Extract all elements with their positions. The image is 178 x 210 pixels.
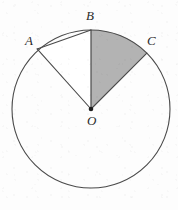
geometry-figure: A B C O <box>0 0 178 210</box>
vertex-label-a: A <box>25 34 33 47</box>
vertex-label-c: C <box>147 34 156 47</box>
sector-boc-fill <box>91 30 147 109</box>
circle-diagram-svg <box>0 0 178 210</box>
center-point-dot <box>89 107 94 112</box>
vertex-label-b: B <box>86 9 94 22</box>
triangle-aob-fill <box>37 30 91 109</box>
center-label-o: O <box>87 114 96 127</box>
